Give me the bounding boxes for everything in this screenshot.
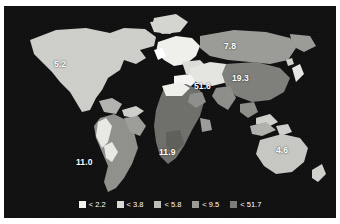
legend-item-5: < 51.7 <box>230 201 261 209</box>
map-label-south-america: 11.0 <box>76 158 92 167</box>
map-label-north-america: 5.2 <box>54 60 66 69</box>
legend-label-2: < 3.8 <box>127 201 144 209</box>
map-label-australia: 4.6 <box>276 146 288 155</box>
map-label-middle-east: 51.6 <box>194 82 211 91</box>
legend-item-3: < 5.8 <box>154 201 181 209</box>
map-canvas: 5.2 11.0 11.9 51.6 7.8 19.3 4.6 < 2.2 < … <box>4 6 336 218</box>
legend-item-4: < 9.5 <box>192 201 219 209</box>
map-label-china: 19.3 <box>232 74 249 83</box>
world-landmass-layer <box>4 6 336 218</box>
legend-swatch-1 <box>79 201 86 208</box>
map-legend: < 2.2 < 3.8 < 5.8 < 9.5 < 51.7 <box>4 201 336 209</box>
region-russia <box>200 30 316 64</box>
region-north-america <box>30 20 180 118</box>
region-south-america <box>94 114 146 192</box>
map-label-russia: 7.8 <box>224 42 236 51</box>
map-label-africa: 11.9 <box>159 148 175 157</box>
legend-label-5: < 51.7 <box>240 201 261 209</box>
region-china <box>212 62 290 118</box>
legend-swatch-3 <box>154 201 161 208</box>
legend-swatch-2 <box>117 201 124 208</box>
legend-item-1: < 2.2 <box>79 201 106 209</box>
legend-label-1: < 2.2 <box>89 201 106 209</box>
legend-swatch-5 <box>230 201 237 208</box>
world-choropleth-figure: 5.2 11.0 11.9 51.6 7.8 19.3 4.6 < 2.2 < … <box>0 0 340 224</box>
legend-label-3: < 5.8 <box>164 201 181 209</box>
legend-swatch-4 <box>192 201 199 208</box>
legend-label-4: < 9.5 <box>202 201 219 209</box>
legend-item-2: < 3.8 <box>117 201 144 209</box>
